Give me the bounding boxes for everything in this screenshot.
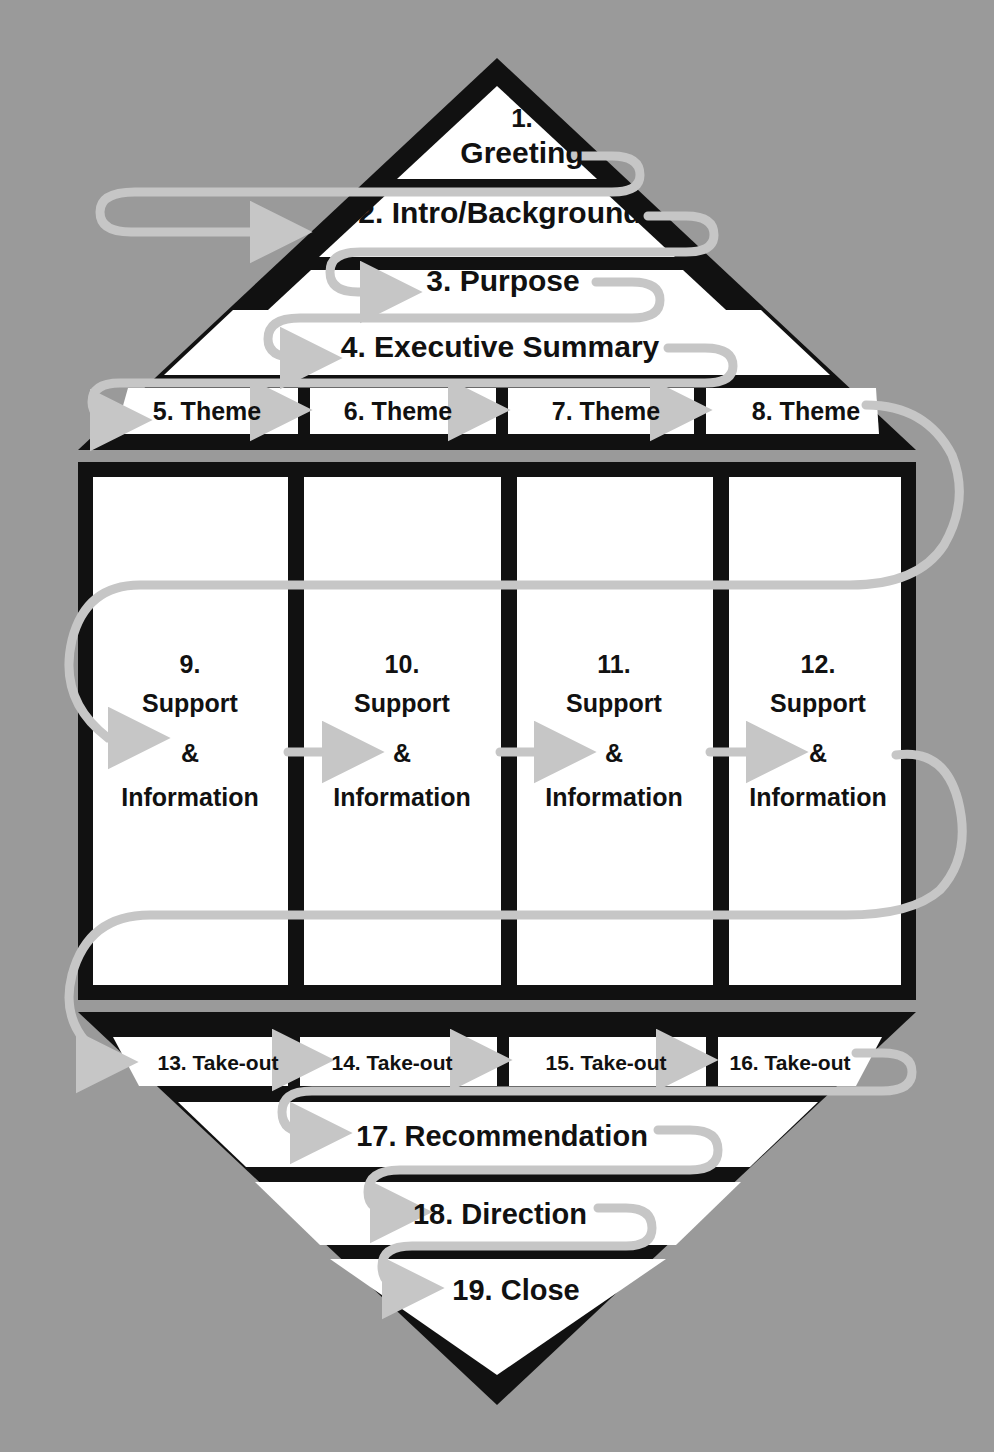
step-1-label: Greeting xyxy=(460,136,583,169)
step-17-label: 17. Recommendation xyxy=(356,1120,648,1152)
step-9-line3: & xyxy=(181,739,199,767)
diagram-canvas: 1. Greeting 2. Intro/Background 3. Purpo… xyxy=(0,0,994,1452)
step-1-number: 1. xyxy=(511,103,533,133)
step-3-label: 3. Purpose xyxy=(426,264,579,297)
step-10-line3: & xyxy=(393,739,411,767)
step-18-label: 18. Direction xyxy=(413,1198,587,1230)
step-14-label: 14. Take-out xyxy=(332,1051,453,1074)
step-6-label: 6. Theme xyxy=(344,397,452,425)
step-9-line4: Information xyxy=(121,783,259,811)
step-13-label: 13. Take-out xyxy=(158,1051,279,1074)
step-11-line2: Support xyxy=(566,689,662,717)
step-10-number: 10. xyxy=(385,650,420,678)
step-8-label: 8. Theme xyxy=(752,397,860,425)
step-11-number: 11. xyxy=(597,650,630,678)
step-16-label: 16. Take-out xyxy=(730,1051,851,1074)
step-4-label: 4. Executive Summary xyxy=(341,330,660,363)
step-9-line2: Support xyxy=(142,689,238,717)
step-10-line2: Support xyxy=(354,689,450,717)
step-12-line2: Support xyxy=(770,689,866,717)
step-12-line4: Information xyxy=(749,783,887,811)
step-11-line4: Information xyxy=(545,783,683,811)
step-12-number: 12. xyxy=(801,650,836,678)
step-9-number: 9. xyxy=(180,650,201,678)
step-5-label: 5. Theme xyxy=(153,397,261,425)
step-10-line4: Information xyxy=(333,783,471,811)
step-12-line3: & xyxy=(809,739,827,767)
step-7-label: 7. Theme xyxy=(552,397,660,425)
pyramid-diagram: 1. Greeting 2. Intro/Background 3. Purpo… xyxy=(0,0,994,1452)
step-19-label: 19. Close xyxy=(452,1274,579,1306)
step-9-shape[interactable] xyxy=(93,477,288,985)
step-2-label: 2. Intro/Background xyxy=(358,196,641,229)
step-11-line3: & xyxy=(605,739,623,767)
step-15-label: 15. Take-out xyxy=(546,1051,667,1074)
step-10-shape[interactable] xyxy=(304,477,501,985)
step-11-shape[interactable] xyxy=(517,477,713,985)
step-12-shape[interactable] xyxy=(729,477,901,985)
